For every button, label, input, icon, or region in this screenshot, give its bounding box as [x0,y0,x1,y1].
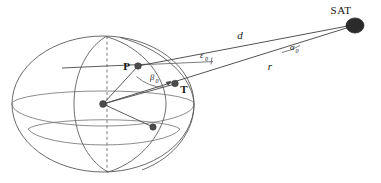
elevation-angle-subscript: 0 [205,56,208,62]
subsatellite-point-label: T [180,83,188,95]
satellite-body-dot [346,18,364,33]
observer-point-p-dot [135,63,142,70]
lower-latitude-front-arc [28,129,180,145]
azimuth-angle-subscript: 0 [296,48,299,54]
orbit-radius-label-r: r [268,60,273,72]
earth-center-dot [100,101,107,108]
subsatellite-point-t-dot [172,80,179,87]
observer-point-label: P [123,60,130,72]
satellite-label: SAT [331,4,352,16]
elevation-angle-label-group: ε 0 [200,50,208,62]
elevation-angle-symbol: ε [200,50,204,60]
meridian-through-p-front [106,37,166,173]
central-angle-symbol: β [149,72,155,82]
central-angle-subscript: 0 [156,78,159,84]
azimuth-angle-symbol: α [290,42,295,52]
elevation-angle-arc [211,58,212,65]
slant-range-label-d: d [237,29,243,41]
satellite-geometry-diagram: SAT P T d r ε 0 β 0 α 0 [0,0,381,183]
diagram-canvas: SAT P T d r ε 0 β 0 α 0 [0,0,381,183]
radius-center-to-equator-node [103,104,153,127]
equator-node-dot [150,124,156,130]
lower-latitude-back-arc [28,120,180,129]
